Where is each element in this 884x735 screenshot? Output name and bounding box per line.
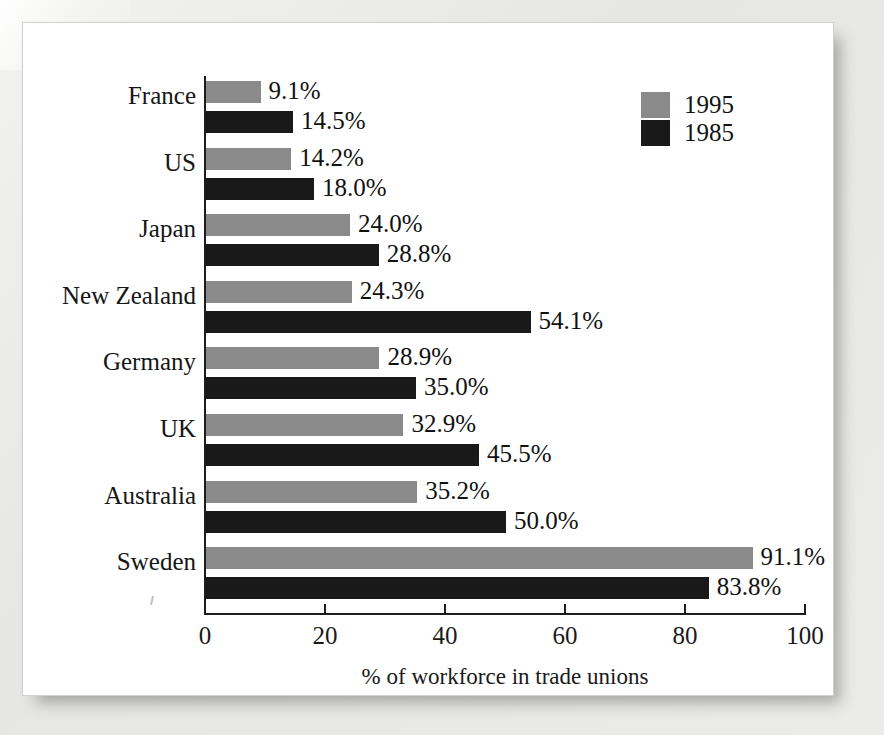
x-tick-0 <box>204 604 206 613</box>
x-tick-60 <box>564 604 566 613</box>
bar-value-uk-1985: 45.5% <box>487 443 552 465</box>
bar-us-1985[interactable] <box>206 178 314 200</box>
category-label-france: France <box>23 82 196 110</box>
bar-value-germany-1995: 28.9% <box>387 346 452 368</box>
bar-france-1995[interactable] <box>206 81 261 103</box>
bar-japan-1985[interactable] <box>206 244 379 266</box>
bar-value-france-1985: 14.5% <box>301 110 366 132</box>
legend-item-1985[interactable]: 1985 <box>641 119 734 147</box>
x-tick-100 <box>804 604 806 613</box>
category-label-australia: Australia <box>23 482 196 510</box>
bar-value-sweden-1995: 91.1% <box>761 546 826 568</box>
x-tick-label-20: 20 <box>295 622 355 650</box>
chart-page-card: 020406080100 France9.1%14.5%US14.2%18.0%… <box>22 22 834 696</box>
legend-item-1995[interactable]: 1995 <box>641 91 734 119</box>
bar-uk-1995[interactable] <box>206 414 403 436</box>
legend-swatch-1995 <box>641 92 670 118</box>
bar-new-zealand-1995[interactable] <box>206 281 352 303</box>
bar-value-us-1995: 14.2% <box>299 147 364 169</box>
category-label-us: US <box>23 149 196 177</box>
bar-value-germany-1985: 35.0% <box>424 376 489 398</box>
scan-speck <box>150 596 154 605</box>
x-tick-label-100: 100 <box>775 622 835 650</box>
x-tick-40 <box>444 604 446 613</box>
bar-france-1985[interactable] <box>206 111 293 133</box>
legend-label-1985: 1985 <box>684 120 734 146</box>
category-label-japan: Japan <box>23 215 196 243</box>
bar-value-australia-1985: 50.0% <box>514 510 579 532</box>
bar-uk-1985[interactable] <box>206 444 479 466</box>
x-axis-line <box>204 613 806 615</box>
bar-value-japan-1995: 24.0% <box>358 213 423 235</box>
bar-sweden-1985[interactable] <box>206 577 709 599</box>
x-axis-title: % of workforce in trade unions <box>204 664 806 690</box>
category-label-new-zealand: New Zealand <box>23 282 196 310</box>
x-tick-20 <box>324 604 326 613</box>
bar-sweden-1995[interactable] <box>206 547 753 569</box>
x-tick-label-80: 80 <box>655 622 715 650</box>
legend-label-1995: 1995 <box>684 92 734 118</box>
x-tick-label-60: 60 <box>535 622 595 650</box>
bar-value-new-zealand-1995: 24.3% <box>360 280 425 302</box>
bar-japan-1995[interactable] <box>206 214 350 236</box>
chart-legend: 1995 1985 <box>641 91 734 147</box>
category-label-sweden: Sweden <box>23 548 196 576</box>
x-tick-label-40: 40 <box>415 622 475 650</box>
bar-chart: 020406080100 France9.1%14.5%US14.2%18.0%… <box>23 23 833 695</box>
bar-value-uk-1995: 32.9% <box>411 413 476 435</box>
bar-value-sweden-1985: 83.8% <box>717 576 782 598</box>
bar-value-us-1985: 18.0% <box>322 177 387 199</box>
legend-swatch-1985 <box>641 120 670 146</box>
bar-new-zealand-1985[interactable] <box>206 311 531 333</box>
bar-australia-1995[interactable] <box>206 481 417 503</box>
category-label-germany: Germany <box>23 348 196 376</box>
bar-germany-1995[interactable] <box>206 347 379 369</box>
bar-us-1995[interactable] <box>206 148 291 170</box>
bar-value-new-zealand-1985: 54.1% <box>539 310 604 332</box>
x-tick-label-0: 0 <box>175 622 235 650</box>
bar-value-australia-1995: 35.2% <box>425 480 490 502</box>
x-tick-80 <box>684 604 686 613</box>
bar-value-japan-1985: 28.8% <box>387 243 452 265</box>
bar-germany-1985[interactable] <box>206 377 416 399</box>
category-label-uk: UK <box>23 415 196 443</box>
bar-australia-1985[interactable] <box>206 511 506 533</box>
bar-value-france-1995: 9.1% <box>269 80 321 102</box>
